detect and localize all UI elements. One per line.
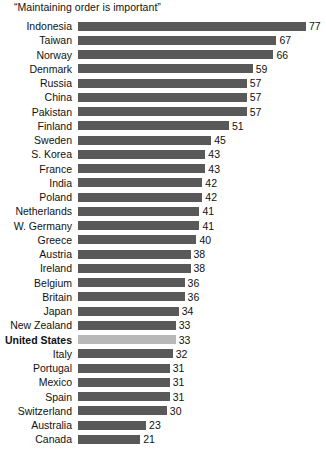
bar-value-label: 57 (247, 76, 262, 90)
bar-track: 32 (78, 347, 326, 361)
bar-value-label: 42 (202, 176, 217, 190)
bar-row: Ireland38 (0, 261, 326, 275)
bar-track: 42 (78, 190, 326, 204)
bar-fill (78, 136, 211, 145)
bar-fill (78, 264, 191, 273)
bar-track: 42 (78, 176, 326, 190)
bar-value-label: 31 (170, 361, 185, 375)
bar-value-label: 59 (253, 62, 268, 76)
bar-value-label: 77 (306, 19, 321, 33)
bar-track: 43 (78, 147, 326, 161)
bar-row-label: Italy (0, 347, 72, 361)
bar-fill (78, 292, 185, 301)
bar-fill (78, 235, 196, 244)
bar-value-label: 38 (191, 247, 206, 261)
bar-row: China57 (0, 90, 326, 104)
bar-row: Pakistan57 (0, 105, 326, 119)
bar-row: New Zealand33 (0, 318, 326, 332)
bar-row: France43 (0, 162, 326, 176)
bar-row-label: Norway (0, 48, 72, 62)
bar-row-label: Spain (0, 390, 72, 404)
bar-value-label: 41 (199, 204, 214, 218)
bar-value-label: 66 (273, 48, 288, 62)
bar-row: Poland42 (0, 190, 326, 204)
bar-track: 31 (78, 361, 326, 375)
bar-row-label: Mexico (0, 375, 72, 389)
bar-track: 31 (78, 390, 326, 404)
bar-row-label: Austria (0, 247, 72, 261)
bar-row-label: Japan (0, 304, 72, 318)
bar-track: 31 (78, 375, 326, 389)
bar-value-label: 31 (170, 390, 185, 404)
bar-fill (78, 392, 170, 401)
bar-fill (78, 207, 199, 216)
bar-row-label: Australia (0, 418, 72, 432)
bar-value-label: 36 (185, 276, 200, 290)
bar-row-label: Pakistan (0, 105, 72, 119)
bar-value-label: 36 (185, 290, 200, 304)
bar-row: Taiwan67 (0, 33, 326, 47)
bar-row: Greece40 (0, 233, 326, 247)
bar-row-label: Denmark (0, 62, 72, 76)
bar-chart: “Maintaining order is important” Indones… (0, 0, 326, 451)
bar-row-label: Indonesia (0, 19, 72, 33)
bar-row: Belgium36 (0, 276, 326, 290)
bar-row-label: Ireland (0, 261, 72, 275)
bar-row-label: Poland (0, 190, 72, 204)
bar-value-label: 38 (191, 261, 206, 275)
bar-track: 21 (78, 432, 326, 446)
bar-rows-container: Indonesia77Taiwan67Norway66Denmark59Russ… (0, 19, 326, 447)
bar-row: Spain31 (0, 390, 326, 404)
bar-fill (78, 22, 306, 31)
bar-row: India42 (0, 176, 326, 190)
bar-track: 36 (78, 290, 326, 304)
bar-track: 77 (78, 19, 326, 33)
bar-row-label: Russia (0, 76, 72, 90)
bar-track: 23 (78, 418, 326, 432)
bar-value-label: 40 (196, 233, 211, 247)
bar-fill (78, 79, 247, 88)
bar-track: 41 (78, 204, 326, 218)
bar-row: Canada21 (0, 432, 326, 446)
bar-row: Finland51 (0, 119, 326, 133)
bar-fill (78, 221, 199, 230)
bar-track: 30 (78, 404, 326, 418)
bar-row: Mexico31 (0, 375, 326, 389)
bar-value-label: 41 (199, 219, 214, 233)
bar-track: 57 (78, 76, 326, 90)
bar-row-label: France (0, 162, 72, 176)
bar-value-label: 23 (146, 418, 161, 432)
bar-fill (78, 107, 247, 116)
bar-value-label: 33 (176, 318, 191, 332)
bar-row: Italy32 (0, 347, 326, 361)
bar-row-label: India (0, 176, 72, 190)
bar-value-label: 21 (140, 432, 155, 446)
bar-row: Sweden45 (0, 133, 326, 147)
bar-track: 38 (78, 247, 326, 261)
bar-fill (78, 93, 247, 102)
bar-value-label: 51 (229, 119, 244, 133)
bar-value-label: 30 (167, 404, 182, 418)
bar-track: 41 (78, 219, 326, 233)
bar-track: 57 (78, 90, 326, 104)
bar-fill (78, 164, 205, 173)
bar-row-label: Sweden (0, 133, 72, 147)
bar-fill (78, 364, 170, 373)
bar-row: W. Germany41 (0, 219, 326, 233)
bar-track: 33 (78, 333, 326, 347)
bar-fill (78, 36, 276, 45)
bar-value-label: 57 (247, 90, 262, 104)
bar-fill (78, 150, 205, 159)
bar-track: 51 (78, 119, 326, 133)
bar-fill (78, 321, 176, 330)
bar-fill (78, 250, 191, 259)
bar-fill (78, 64, 253, 73)
bar-row-label: United States (0, 333, 72, 347)
bar-track: 67 (78, 33, 326, 47)
bar-track: 57 (78, 105, 326, 119)
bar-value-label: 43 (205, 162, 220, 176)
bar-row-label: Britain (0, 290, 72, 304)
bar-track: 45 (78, 133, 326, 147)
bar-fill (78, 307, 179, 316)
bar-fill (78, 406, 167, 415)
